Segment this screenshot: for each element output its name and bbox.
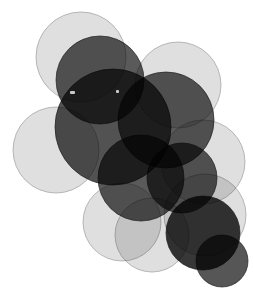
circle-bottom-corner-dark [196,235,248,287]
circle-composition-svg [0,0,253,296]
image-canvas [0,0,253,296]
